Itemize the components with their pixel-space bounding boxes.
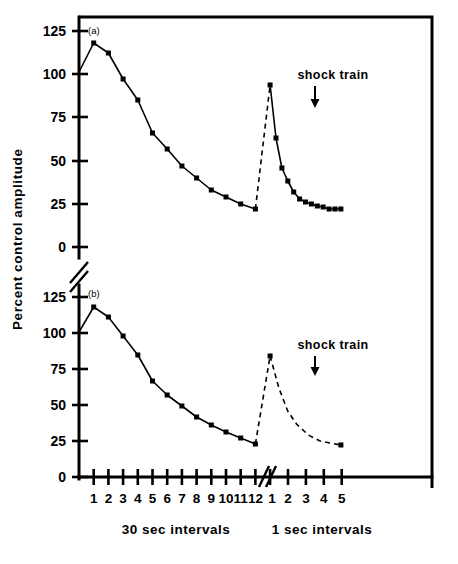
panel-a-data-markers — [91, 41, 343, 212]
x-tick-s5: 5 — [338, 491, 346, 506]
x-tick-3: 3 — [119, 491, 127, 506]
panel-a-shock-rise — [255, 85, 270, 209]
x-axis-tick-labels-right: 1 2 3 4 5 — [268, 491, 346, 506]
y-axis-label: Percent control amplitude — [10, 148, 25, 330]
y-tick-0-b: 0 — [58, 469, 66, 485]
panel-b-preshock-curve — [79, 307, 255, 444]
panel-a-label: (a) — [88, 25, 100, 36]
panel-b-label: (b) — [88, 288, 100, 299]
y-tick-50-b: 50 — [50, 397, 66, 413]
panel-a-shock-annotation: shock train — [297, 68, 368, 82]
x-tick-s3: 3 — [302, 491, 310, 506]
y-tick-0: 0 — [58, 239, 66, 255]
y-tick-100: 100 — [43, 66, 67, 82]
panel-b-shock-rise — [255, 356, 270, 444]
panel-b-data-markers — [91, 305, 343, 448]
x-axis-tick-labels-left: 1 2 3 4 5 6 7 8 9 10 11 12 — [90, 491, 263, 506]
x-tick-8: 8 — [193, 491, 201, 506]
x-tick-s2: 2 — [284, 491, 292, 506]
x-tick-2: 2 — [105, 491, 113, 506]
panel-b-shock-arrow — [311, 356, 320, 376]
x-axis-caption-left: 30 sec intervals — [122, 522, 231, 537]
panel-b: (b) 125 100 75 50 25 0 — [43, 285, 432, 485]
x-tick-12: 12 — [248, 491, 263, 506]
panel-a-preshock-curve — [79, 43, 255, 209]
y-tick-125: 125 — [43, 23, 67, 39]
y-tick-25: 25 — [50, 196, 66, 212]
y-tick-125-b: 125 — [43, 289, 67, 305]
panel-a-recovery-curve — [270, 85, 341, 209]
x-tick-11: 11 — [234, 491, 249, 506]
panel-b-shock-annotation: shock train — [297, 338, 368, 352]
x-tick-s4: 4 — [320, 491, 328, 506]
chart-svg: Percent control amplitude (a) 125 100 75… — [0, 0, 458, 564]
panel-a-y-tick-labels: 125 100 75 50 25 0 — [43, 23, 67, 255]
x-axis-caption-right: 1 sec intervals — [272, 522, 373, 537]
y-tick-100-b: 100 — [43, 325, 67, 341]
x-tick-7: 7 — [178, 491, 186, 506]
panel-a-shock-arrow — [311, 86, 320, 108]
panel-a: (a) 125 100 75 50 25 0 — [43, 17, 369, 258]
y-tick-75-b: 75 — [50, 361, 66, 377]
panel-b-recovery-curve — [270, 356, 341, 445]
panel-b-y-tick-labels: 125 100 75 50 25 0 — [43, 289, 67, 485]
y-tick-50: 50 — [50, 153, 66, 169]
plot-frame — [79, 17, 432, 488]
x-tick-1: 1 — [90, 491, 98, 506]
x-tick-4: 4 — [134, 491, 142, 506]
x-tick-6: 6 — [163, 491, 171, 506]
x-tick-10: 10 — [218, 491, 233, 506]
y-tick-25-b: 25 — [50, 433, 66, 449]
y-tick-75: 75 — [50, 109, 66, 125]
x-tick-5: 5 — [149, 491, 157, 506]
figure-container: Percent control amplitude (a) 125 100 75… — [0, 0, 458, 564]
x-tick-s1: 1 — [268, 491, 276, 506]
x-tick-9: 9 — [208, 491, 216, 506]
